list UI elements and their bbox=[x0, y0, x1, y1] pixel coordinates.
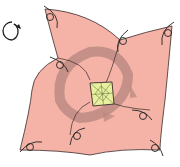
origami-diagram bbox=[0, 0, 180, 167]
turn-over-icon bbox=[3, 22, 21, 40]
paper-body bbox=[20, 9, 172, 155]
center-square bbox=[90, 82, 114, 106]
